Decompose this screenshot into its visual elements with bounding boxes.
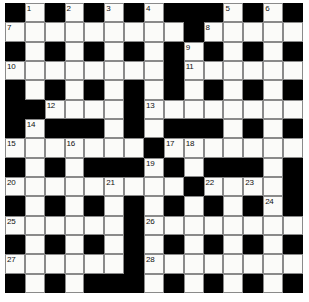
letter-cell[interactable]: [65, 80, 85, 99]
letter-cell[interactable]: [65, 274, 85, 293]
letter-cell[interactable]: [283, 138, 303, 157]
letter-cell[interactable]: [223, 42, 243, 61]
letter-cell[interactable]: [184, 80, 204, 99]
letter-cell[interactable]: [204, 61, 224, 80]
letter-cell[interactable]: [204, 100, 224, 119]
letter-cell[interactable]: 10: [5, 61, 25, 80]
letter-cell[interactable]: [45, 177, 65, 196]
letter-cell[interactable]: [65, 196, 85, 215]
letter-cell[interactable]: [144, 196, 164, 215]
letter-cell[interactable]: 3: [104, 3, 124, 22]
letter-cell[interactable]: [25, 158, 45, 177]
letter-cell[interactable]: [84, 22, 104, 41]
letter-cell[interactable]: [164, 100, 184, 119]
letter-cell[interactable]: [144, 61, 164, 80]
letter-cell[interactable]: [243, 254, 263, 273]
letter-cell[interactable]: [243, 100, 263, 119]
letter-cell[interactable]: [223, 216, 243, 235]
letter-cell[interactable]: [223, 254, 243, 273]
letter-cell[interactable]: [84, 254, 104, 273]
letter-cell[interactable]: 11: [184, 61, 204, 80]
letter-cell[interactable]: [65, 254, 85, 273]
letter-cell[interactable]: [263, 100, 283, 119]
letter-cell[interactable]: [184, 196, 204, 215]
letter-cell[interactable]: [65, 158, 85, 177]
letter-cell[interactable]: [144, 22, 164, 41]
crossword-grid[interactable]: 1234567891011121314151617181920212223242…: [5, 3, 303, 293]
letter-cell[interactable]: [223, 138, 243, 157]
letter-cell[interactable]: 14: [25, 119, 45, 138]
letter-cell[interactable]: [263, 235, 283, 254]
letter-cell[interactable]: 18: [184, 138, 204, 157]
letter-cell[interactable]: [204, 216, 224, 235]
letter-cell[interactable]: [84, 177, 104, 196]
letter-cell[interactable]: [263, 80, 283, 99]
letter-cell[interactable]: [25, 80, 45, 99]
letter-cell[interactable]: [144, 235, 164, 254]
letter-cell[interactable]: [144, 80, 164, 99]
letter-cell[interactable]: [65, 216, 85, 235]
letter-cell[interactable]: [104, 100, 124, 119]
letter-cell[interactable]: 20: [5, 177, 25, 196]
letter-cell[interactable]: [104, 138, 124, 157]
letter-cell[interactable]: [25, 61, 45, 80]
letter-cell[interactable]: [45, 22, 65, 41]
letter-cell[interactable]: [184, 254, 204, 273]
letter-cell[interactable]: [283, 216, 303, 235]
letter-cell[interactable]: [223, 100, 243, 119]
letter-cell[interactable]: [164, 254, 184, 273]
letter-cell[interactable]: [104, 61, 124, 80]
letter-cell[interactable]: [104, 254, 124, 273]
letter-cell[interactable]: [25, 235, 45, 254]
letter-cell[interactable]: [84, 100, 104, 119]
letter-cell[interactable]: [164, 22, 184, 41]
letter-cell[interactable]: 1: [25, 3, 45, 22]
letter-cell[interactable]: [263, 42, 283, 61]
letter-cell[interactable]: [84, 61, 104, 80]
letter-cell[interactable]: [164, 216, 184, 235]
letter-cell[interactable]: [223, 80, 243, 99]
letter-cell[interactable]: 6: [263, 3, 283, 22]
letter-cell[interactable]: [263, 216, 283, 235]
letter-cell[interactable]: [243, 22, 263, 41]
letter-cell[interactable]: 9: [184, 42, 204, 61]
letter-cell[interactable]: 19: [144, 158, 164, 177]
letter-cell[interactable]: [243, 216, 263, 235]
letter-cell[interactable]: [144, 177, 164, 196]
letter-cell[interactable]: [204, 138, 224, 157]
letter-cell[interactable]: [164, 177, 184, 196]
letter-cell[interactable]: [204, 254, 224, 273]
letter-cell[interactable]: [263, 254, 283, 273]
letter-cell[interactable]: [263, 119, 283, 138]
letter-cell[interactable]: [104, 42, 124, 61]
letter-cell[interactable]: [104, 119, 124, 138]
letter-cell[interactable]: [283, 22, 303, 41]
letter-cell[interactable]: 16: [65, 138, 85, 157]
letter-cell[interactable]: 8: [204, 22, 224, 41]
letter-cell[interactable]: [124, 138, 144, 157]
letter-cell[interactable]: [84, 216, 104, 235]
letter-cell[interactable]: [283, 254, 303, 273]
letter-cell[interactable]: [144, 42, 164, 61]
letter-cell[interactable]: [223, 61, 243, 80]
letter-cell[interactable]: [25, 177, 45, 196]
letter-cell[interactable]: 12: [45, 100, 65, 119]
letter-cell[interactable]: [184, 274, 204, 293]
letter-cell[interactable]: 24: [263, 196, 283, 215]
letter-cell[interactable]: [45, 254, 65, 273]
letter-cell[interactable]: [223, 119, 243, 138]
letter-cell[interactable]: [25, 274, 45, 293]
letter-cell[interactable]: [104, 196, 124, 215]
letter-cell[interactable]: [223, 235, 243, 254]
letter-cell[interactable]: [144, 274, 164, 293]
letter-cell[interactable]: [65, 177, 85, 196]
letter-cell[interactable]: 23: [243, 177, 263, 196]
letter-cell[interactable]: [65, 61, 85, 80]
letter-cell[interactable]: [25, 42, 45, 61]
letter-cell[interactable]: [144, 119, 164, 138]
letter-cell[interactable]: [263, 138, 283, 157]
letter-cell[interactable]: [45, 216, 65, 235]
letter-cell[interactable]: [263, 22, 283, 41]
letter-cell[interactable]: [25, 254, 45, 273]
letter-cell[interactable]: [263, 177, 283, 196]
